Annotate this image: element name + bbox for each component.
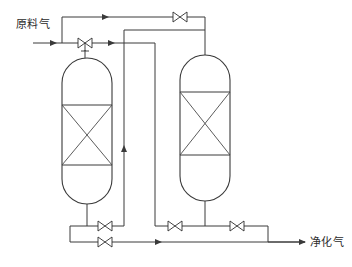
valve-middle-bottom-left-tri <box>168 221 175 231</box>
left-vessel-shell <box>62 58 112 204</box>
valve-left-bottom-lower-right-tri <box>105 237 112 247</box>
valve-left-bottom-lower[interactable] <box>98 237 112 247</box>
valve-right-bottom-outlet-right-tri <box>237 221 244 231</box>
pfd-canvas: 原料气 净化气 <box>0 0 352 267</box>
arrow-purified-out <box>299 239 306 245</box>
left-adsorber-vessel <box>62 58 112 204</box>
arrow-feed-inlet <box>50 40 57 46</box>
valve-top-crossover[interactable] <box>173 12 187 22</box>
arrow-feed-to-riser <box>108 40 115 46</box>
process-flow-diagram: 原料气 净化气 <box>0 0 352 267</box>
valve-middle-bottom-right-tri <box>175 221 182 231</box>
valve-right-bottom-outlet-left-tri <box>230 221 237 231</box>
purified-gas-label: 净化气 <box>310 235 344 249</box>
arrow-bottom-outlet <box>155 239 162 245</box>
valve-feed-inlet-left-tri <box>78 38 85 48</box>
piping-network <box>33 17 305 242</box>
valve-top-crossover-right-tri <box>180 12 187 22</box>
valve-feed-inlet-right-tri <box>85 38 92 48</box>
arrow-top-bypass <box>102 14 109 20</box>
valve-right-bottom-outlet[interactable] <box>230 221 244 231</box>
flow-arrows <box>50 14 306 245</box>
right-adsorber-vessel <box>180 55 230 201</box>
valve-left-bottom-upper-left-tri <box>98 221 105 231</box>
valve-feed-inlet[interactable] <box>78 38 92 51</box>
arrow-riser-up <box>121 145 127 152</box>
valve-top-crossover-left-tri <box>173 12 180 22</box>
valve-middle-bottom[interactable] <box>168 221 182 231</box>
valve-left-bottom-lower-left-tri <box>98 237 105 247</box>
right-vessel-shell <box>180 55 230 201</box>
valve-left-bottom-upper[interactable] <box>98 221 112 231</box>
valve-left-bottom-upper-right-tri <box>105 221 112 231</box>
feed-gas-label: 原料气 <box>16 17 50 31</box>
